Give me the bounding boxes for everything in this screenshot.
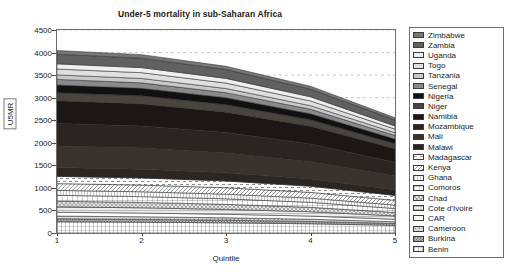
legend-swatch: [413, 63, 424, 69]
stacked-area-svg: [57, 30, 395, 233]
legend-swatch: [413, 154, 424, 160]
legend-swatch: [413, 42, 424, 48]
legend-item-nigeria[interactable]: Nigeria: [413, 91, 503, 101]
legend-item-burkina[interactable]: Burkina: [413, 234, 503, 244]
legend-label: Burkina: [428, 234, 455, 243]
legend-swatch: [413, 205, 424, 211]
x-axis-tick-mark: [57, 233, 58, 236]
legend-swatch: [413, 195, 424, 201]
legend-swatch: [413, 32, 424, 38]
legend-label: Benin: [428, 245, 448, 254]
legend-swatch: [413, 93, 424, 99]
chart-screenshot: Under-5 mortality in sub-Saharan Africa …: [0, 0, 507, 277]
legend-label: Togo: [428, 61, 445, 70]
legend-label: Ghana: [428, 173, 452, 182]
x-axis-tick-mark: [142, 233, 143, 236]
x-axis-tick-labels: 12345: [56, 236, 396, 250]
legend-item-cote-d-ivoire[interactable]: Cote d'Ivoire: [413, 203, 503, 213]
x-axis-title: Quintlie: [56, 254, 396, 263]
legend-swatch: [413, 114, 424, 120]
x-axis-tick-label: 1: [55, 236, 59, 245]
chart-title: Under-5 mortality in sub-Saharan Africa: [0, 9, 400, 19]
legend-label: CAR: [428, 214, 445, 223]
legend-item-benin[interactable]: Benin: [413, 244, 503, 254]
legend-label: Niger: [428, 102, 447, 111]
legend-item-comoros[interactable]: Comoros: [413, 183, 503, 193]
legend-label: Chad: [428, 194, 447, 203]
legend-label: Madagascar: [428, 153, 472, 162]
legend-swatch: [413, 103, 424, 109]
legend-label: Zimbabwe: [428, 31, 465, 40]
legend-swatch: [413, 52, 424, 58]
legend-swatch: [413, 165, 424, 171]
legend-label: Namibia: [428, 112, 457, 121]
legend-label: Kenya: [428, 163, 451, 172]
legend-swatch: [413, 144, 424, 150]
legend-item-cameroon[interactable]: Cameroon: [413, 224, 503, 234]
legend-swatch: [413, 215, 424, 221]
legend-label: Uganda: [428, 51, 456, 60]
legend-item-tanzania[interactable]: Tanzania: [413, 71, 503, 81]
legend-label: Comoros: [428, 183, 460, 192]
legend-item-ghana[interactable]: Ghana: [413, 173, 503, 183]
legend-label: Nigeria: [428, 92, 453, 101]
legend-label: Tanzania: [428, 71, 460, 80]
x-axis-tick-label: 3: [224, 236, 228, 245]
legend-label: Zambia: [428, 41, 455, 50]
legend-label: Mali: [428, 132, 443, 141]
x-axis-tick-label: 4: [308, 236, 312, 245]
legend-item-chad[interactable]: Chad: [413, 193, 503, 203]
x-axis-tick-label: 2: [139, 236, 143, 245]
legend-label: Senegal: [428, 82, 457, 91]
legend-item-kenya[interactable]: Kenya: [413, 162, 503, 172]
legend-item-mali[interactable]: Mali: [413, 132, 503, 142]
legend-label: Malawi: [428, 143, 453, 152]
legend-item-mozambique[interactable]: Mozambique: [413, 122, 503, 132]
legend-item-malawi[interactable]: Malawi: [413, 142, 503, 152]
x-axis-tick-mark: [226, 233, 227, 236]
legend-swatch: [413, 236, 424, 242]
stacked-area-bands: [57, 51, 395, 233]
legend-swatch: [413, 134, 424, 140]
plot-area: [56, 29, 396, 234]
legend-swatch: [413, 124, 424, 130]
plot-frame: [56, 29, 396, 234]
legend-item-uganda[interactable]: Uganda: [413, 50, 503, 60]
legend-item-senegal[interactable]: Senegal: [413, 81, 503, 91]
legend-swatch: [413, 175, 424, 181]
legend-item-zambia[interactable]: Zambia: [413, 40, 503, 50]
legend-swatch: [413, 226, 424, 232]
legend-item-namibia[interactable]: Namibia: [413, 112, 503, 122]
legend-item-madagascar[interactable]: Madagascar: [413, 152, 503, 162]
legend-item-togo[interactable]: Togo: [413, 61, 503, 71]
x-axis-tick-mark: [311, 233, 312, 236]
legend-label: Cote d'Ivoire: [428, 204, 473, 213]
x-axis-tick-mark: [395, 233, 396, 236]
chart-legend: ZimbabweZambiaUgandaTogoTanzaniaSenegalN…: [409, 27, 504, 258]
legend-item-car[interactable]: CAR: [413, 213, 503, 223]
legend-item-zimbabwe[interactable]: Zimbabwe: [413, 30, 503, 40]
legend-label: Mozambique: [428, 122, 474, 131]
legend-item-niger[interactable]: Niger: [413, 101, 503, 111]
legend-swatch: [413, 73, 424, 79]
legend-swatch: [413, 83, 424, 89]
legend-swatch: [413, 185, 424, 191]
y-axis-tick-marks: [0, 29, 60, 234]
legend-label: Cameroon: [428, 224, 465, 233]
legend-swatch: [413, 246, 424, 252]
x-axis-tick-label: 5: [393, 236, 397, 245]
